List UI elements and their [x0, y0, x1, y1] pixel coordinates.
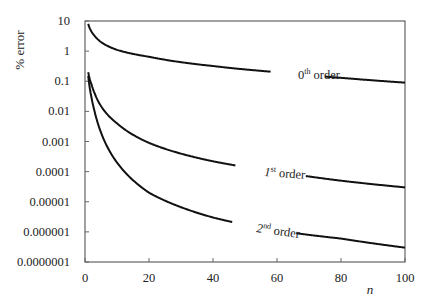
x-tick-label: 60	[271, 271, 284, 285]
y-axis-title: % error	[12, 30, 27, 70]
x-tick-label: 20	[143, 271, 156, 285]
y-axis-ticks: 1010.10.010.0010.00010.000010.0000010.00…	[17, 14, 89, 269]
x-axis-title: n	[367, 282, 374, 297]
y-tick-label: 0.00001	[29, 195, 70, 209]
plot-area	[85, 21, 405, 262]
y-tick-label: 1	[64, 44, 70, 58]
x-tick-label: 100	[396, 271, 415, 285]
y-tick-label: 0.0000001	[17, 255, 70, 269]
x-tick-label: 0	[82, 271, 88, 285]
x-tick-label: 40	[207, 271, 220, 285]
y-tick-label: 10	[58, 14, 71, 28]
y-tick-label: 0.0001	[36, 165, 70, 179]
y-tick-label: 0.000001	[23, 225, 70, 239]
y-tick-label: 0.01	[48, 104, 70, 118]
y-tick-label: 0.1	[54, 74, 70, 88]
y-tick-label: 0.001	[42, 135, 70, 149]
x-tick-label: 80	[335, 271, 348, 285]
chart: 1010.10.010.0010.00010.000010.0000010.00…	[0, 0, 424, 308]
